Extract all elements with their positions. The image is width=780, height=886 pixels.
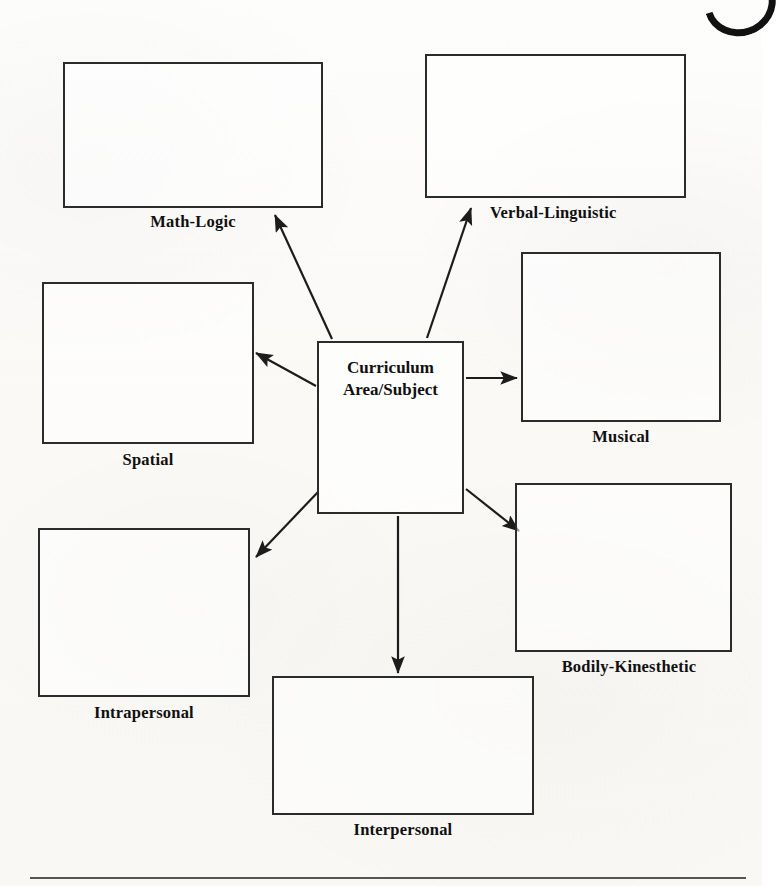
node-box-bodily-kinesthetic[interactable]	[515, 483, 732, 652]
center-node-label: Curriculum Area/Subject	[319, 357, 462, 402]
node-box-intrapersonal[interactable]	[38, 528, 250, 697]
arrow-to-bodily-kinesthetic	[466, 489, 519, 531]
node-label-intrapersonal: Intrapersonal	[38, 703, 250, 723]
node-box-verbal-linguistic[interactable]	[425, 54, 686, 198]
node-label-math-logic: Math-Logic	[63, 212, 323, 232]
node-box-center-curriculum[interactable]: Curriculum Area/Subject	[317, 341, 464, 514]
node-box-interpersonal[interactable]	[272, 676, 534, 815]
node-label-spatial: Spatial	[42, 450, 254, 470]
node-box-spatial[interactable]	[42, 282, 254, 444]
page-bottom-rule	[30, 877, 746, 879]
node-box-math-logic[interactable]	[63, 62, 323, 208]
arrow-to-spatial	[256, 353, 316, 386]
node-label-musical: Musical	[521, 427, 721, 447]
node-label-bodily-kinesthetic: Bodily-Kinesthetic	[515, 657, 743, 677]
arrow-to-math-logic	[275, 215, 332, 339]
node-box-musical[interactable]	[521, 252, 721, 422]
arrow-to-verbal-linguistic	[427, 208, 471, 338]
arrow-to-intrapersonal	[256, 492, 318, 557]
node-label-interpersonal: Interpersonal	[272, 820, 534, 840]
node-label-verbal-linguistic: Verbal-Linguistic	[490, 203, 690, 223]
